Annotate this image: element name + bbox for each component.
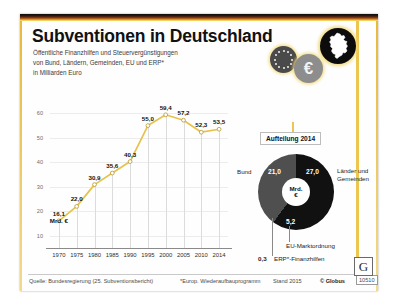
data-point-marker <box>75 204 79 208</box>
infographic-poster: Subventionen in Deutschland Öffentliche … <box>20 14 378 291</box>
eu-star-dot <box>274 59 276 61</box>
eu-star-dot <box>291 59 293 61</box>
eu-star-dot <box>283 50 285 52</box>
pie-label-laender: Länder und Gemeinden <box>337 167 369 184</box>
data-point-marker <box>110 171 114 175</box>
data-point-label: 55,0 <box>135 115 161 122</box>
page-subtitle: Öffentliche Finanzhilfen und Steuervergü… <box>33 48 178 79</box>
germany-map-shape <box>326 32 351 60</box>
leader-line-eu <box>289 226 290 242</box>
eu-star-dot <box>290 63 292 65</box>
eu-star-dot <box>287 51 289 53</box>
chart-series <box>28 92 233 270</box>
data-point-label: 22,0 <box>64 195 90 202</box>
data-point-marker <box>217 127 221 131</box>
page-title: Subventionen in Deutschland <box>32 26 273 47</box>
pie-value-eu: 5,2 <box>286 218 295 225</box>
data-point-label: 35,6 <box>99 162 125 169</box>
pie-chart-panel: Aufteilung 2014 Mrd. € 21,027,05,2BundLä… <box>234 132 366 272</box>
eu-star-dot <box>283 67 285 69</box>
data-point-marker <box>128 160 132 164</box>
footer-stand: Stand 2015 <box>273 278 302 284</box>
pie-value-erp: 0,3 <box>258 255 267 263</box>
donut-center-label: Mrd. € <box>282 178 310 206</box>
x-axis-tick-label: 2014 <box>208 252 230 258</box>
footer-note: *Europ. Wiederaufbauprogramm <box>180 278 261 284</box>
data-point-marker <box>146 124 150 128</box>
globus-logo-icon: G <box>354 257 373 276</box>
data-point-marker <box>164 113 168 117</box>
data-point-marker <box>93 183 97 187</box>
pie-title: Aufteilung 2014 <box>260 132 321 145</box>
pie-value-laender: 27,0 <box>306 168 319 175</box>
eu-star-dot <box>278 66 280 68</box>
data-point-label: 30,9 <box>82 174 108 181</box>
leader-line-erp <box>272 218 273 256</box>
unit-note-label: Mrd. € <box>44 217 74 224</box>
emblem-group: € <box>268 24 366 86</box>
german-flag-bar <box>20 14 378 21</box>
eu-star-dot <box>275 63 277 65</box>
footer-divider <box>28 274 370 275</box>
footer-source: Quelle: Bundesregierung (25. Subventions… <box>29 278 153 284</box>
eu-star-dot <box>275 54 277 56</box>
data-point-marker <box>199 130 203 134</box>
pie-label-erp: ERP*-Finanzhilfen <box>274 255 325 263</box>
eu-star-dot <box>278 51 280 53</box>
eu-star-dot <box>287 66 289 68</box>
series-line <box>59 115 219 221</box>
left-gold-rail <box>20 21 22 291</box>
pie-label-bund: Bund <box>237 168 251 176</box>
pie-value-bund: 21,0 <box>268 168 281 175</box>
eu-star-dot <box>290 54 292 56</box>
line-chart: 10203040506016,122,030,935,640,355,059,4… <box>28 92 233 270</box>
germany-map-icon <box>320 28 356 64</box>
footer-graphic-number: 10510 <box>356 275 378 285</box>
data-point-label: 16,1 <box>46 210 72 217</box>
eu-stars-icon <box>270 46 297 73</box>
footer-copyright: © Globus <box>320 278 345 284</box>
pie-label-eu-marktordnung: EU-Marktordnung <box>286 242 335 250</box>
data-point-label: 53,5 <box>206 118 232 125</box>
donut-center-line2: € <box>294 192 297 199</box>
euro-coin-icon: € <box>294 54 323 83</box>
right-gold-rail <box>376 21 378 291</box>
data-point-marker <box>182 118 186 122</box>
data-point-label: 57,2 <box>171 109 197 116</box>
data-point-label: 40,3 <box>117 151 143 158</box>
